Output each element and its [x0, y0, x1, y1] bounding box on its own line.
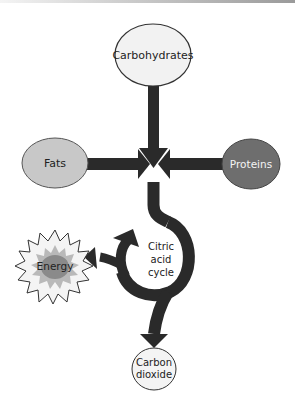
label-energy: Energy [37, 260, 74, 272]
label-carbohydrates: Carbohydrates [112, 49, 193, 62]
arrow-proteins [158, 149, 225, 179]
node-proteins: Proteins [222, 139, 280, 189]
svg-text:Citric: Citric [148, 241, 174, 252]
citric-acid-diagram: Carbohydrates Fats Proteins Energy Citri… [0, 0, 295, 395]
svg-text:cycle: cycle [148, 267, 174, 278]
label-fats: Fats [44, 157, 66, 170]
svg-text:Carbon: Carbon [136, 357, 172, 368]
arrow-carbon-dioxide [140, 334, 168, 348]
node-carbohydrates: Carbohydrates [112, 24, 193, 86]
svg-text:dioxide: dioxide [136, 369, 172, 380]
arrow-energy [84, 229, 139, 276]
arrow-fats [85, 149, 150, 179]
label-citric-acid-cycle: Citric acid cycle [148, 241, 174, 278]
svg-text:acid: acid [151, 254, 172, 265]
node-energy: Energy [15, 230, 93, 304]
node-fats: Fats [22, 138, 88, 188]
label-proteins: Proteins [230, 158, 272, 170]
node-carbon-dioxide: Carbon dioxide [132, 348, 176, 390]
